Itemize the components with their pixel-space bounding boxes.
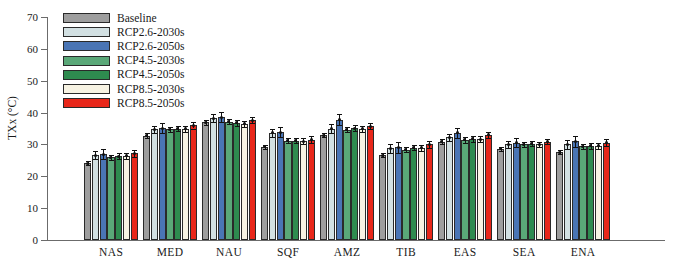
legend-label: RCP2.6-2030s (117, 27, 184, 38)
bar (351, 128, 358, 240)
bar (513, 143, 520, 240)
error-bar-cap (447, 134, 452, 135)
error-bar-cap (381, 157, 386, 158)
legend-label: RCP8.5-2050s (117, 98, 184, 109)
bar (505, 144, 512, 240)
bar (359, 129, 366, 240)
error-bar-cap (419, 151, 424, 152)
mean-marker (251, 119, 254, 122)
error-bar-cap (455, 138, 460, 139)
error-bar-cap (573, 147, 578, 148)
bar (233, 123, 240, 240)
legend-label: RCP8.5-2030s (117, 84, 184, 95)
bar (277, 132, 284, 240)
error-bar-cap (145, 138, 150, 139)
mean-marker (279, 131, 282, 134)
x-axis-tick-label: NAS (81, 246, 141, 258)
bar (269, 133, 276, 240)
bar (343, 130, 350, 240)
chart-legend: BaselineRCP2.6-2030sRCP2.6-2050sRCP4.5-2… (63, 11, 184, 110)
mean-marker (389, 147, 392, 150)
bar (485, 135, 492, 240)
bar (454, 133, 461, 240)
bar (497, 149, 504, 240)
error-bar-cap (486, 138, 491, 139)
bar-group (556, 17, 610, 240)
error-bar-cap (360, 132, 365, 133)
bar (151, 129, 158, 240)
mean-marker (546, 140, 549, 143)
legend-item: RCP8.5-2050s (63, 96, 184, 110)
error-bar-cap (353, 131, 358, 132)
bar-group (379, 17, 433, 240)
y-axis-tick-label: 20 (4, 171, 38, 181)
error-bar-cap (455, 128, 460, 129)
error-bar-cap (168, 132, 173, 133)
error-bar-cap (558, 154, 563, 155)
bar (469, 139, 476, 240)
bar (446, 137, 453, 240)
bar (603, 143, 610, 240)
legend-item: RCP8.5-2030s (63, 82, 184, 96)
bar (544, 142, 551, 240)
error-bar-cap (93, 159, 98, 160)
y-axis-tick-label: 10 (4, 203, 38, 213)
bar (379, 155, 386, 240)
bar (410, 148, 417, 240)
error-bar-cap (93, 151, 98, 152)
chart-figure: 010203040506070 TXx (°C) NASMEDNAUSQFAMZ… (0, 0, 678, 274)
x-axis-tick-label: AMZ (317, 246, 377, 258)
x-axis-tick-label: SEA (494, 246, 554, 258)
bar (564, 144, 571, 240)
bar (241, 124, 248, 240)
y-axis-tick-label: 0 (4, 235, 38, 245)
bar (579, 146, 586, 240)
bar (300, 141, 307, 240)
error-bar-cap (250, 117, 255, 118)
error-bar-cap (514, 138, 519, 139)
x-axis-tick-label: EAS (435, 246, 495, 258)
error-bar-cap (514, 147, 519, 148)
bar (210, 118, 217, 240)
mean-marker (220, 116, 223, 119)
error-bar-cap (388, 144, 393, 145)
legend-swatch (63, 41, 110, 51)
bar (367, 126, 374, 240)
error-bar-cap (191, 129, 196, 130)
mean-marker (117, 155, 120, 158)
mean-marker (322, 134, 325, 137)
error-bar-cap (573, 136, 578, 137)
mean-marker (381, 154, 384, 157)
mean-marker (212, 117, 215, 120)
error-bar-cap (117, 159, 122, 160)
error-bar-cap (471, 142, 476, 143)
error-bar-cap (132, 157, 137, 158)
bar (166, 129, 173, 240)
error-bar-cap (211, 122, 216, 123)
error-bar-cap (478, 142, 483, 143)
bar (572, 141, 579, 240)
error-bar-cap (427, 148, 432, 149)
error-bar-cap (404, 152, 409, 153)
error-bar-cap (522, 147, 527, 148)
bar (107, 157, 114, 240)
legend-swatch (63, 27, 110, 37)
error-bar-cap (565, 140, 570, 141)
bar (202, 122, 209, 240)
x-axis-line (47, 240, 665, 241)
x-axis-tick-label: ENA (553, 246, 613, 258)
error-bar-cap (506, 148, 511, 149)
legend-label: RCP4.5-2030s (117, 55, 184, 66)
error-bar-cap (322, 137, 327, 138)
bar (426, 144, 433, 240)
y-axis-tick-label: 60 (4, 44, 38, 54)
error-bar-cap (227, 124, 232, 125)
error-bar-cap (152, 126, 157, 127)
bar (115, 156, 122, 240)
bar (520, 144, 527, 240)
error-bar-cap (589, 149, 594, 150)
error-bar-cap (152, 133, 157, 134)
error-bar-cap (132, 150, 137, 151)
error-bar-cap (183, 132, 188, 133)
bar (123, 156, 130, 240)
